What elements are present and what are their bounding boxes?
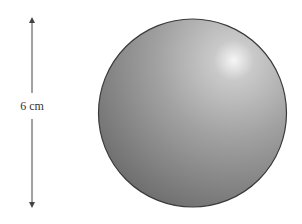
dimension-label: 6 cm	[15, 99, 49, 114]
sphere	[99, 19, 287, 207]
